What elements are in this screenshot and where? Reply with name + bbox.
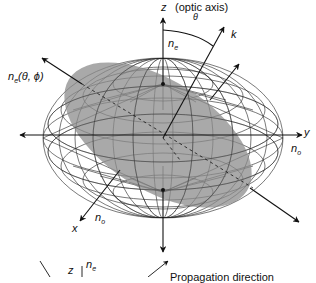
y-axis-label: y: [304, 126, 310, 138]
inset-diagram: [40, 261, 168, 277]
ne-theta-phi-vector: [42, 58, 82, 84]
lower-right-vector: [250, 188, 299, 222]
no-right-label: no: [291, 142, 301, 154]
no-left-label: no: [95, 211, 105, 223]
x-axis-label: x: [72, 222, 78, 234]
k-label: k: [231, 28, 237, 40]
inset-ne-label: ne: [86, 258, 96, 270]
ne-top-label: ne: [168, 37, 178, 49]
z-axis-label: z: [161, 1, 167, 13]
optic-axis-label: (optic axis): [175, 1, 228, 13]
ne-theta-phi-label: ne(θ, ϕ): [8, 70, 44, 82]
inset-z-label: z: [68, 264, 74, 276]
inset-caption: Propagation direction: [170, 271, 274, 283]
theta-label: θ: [193, 12, 198, 22]
